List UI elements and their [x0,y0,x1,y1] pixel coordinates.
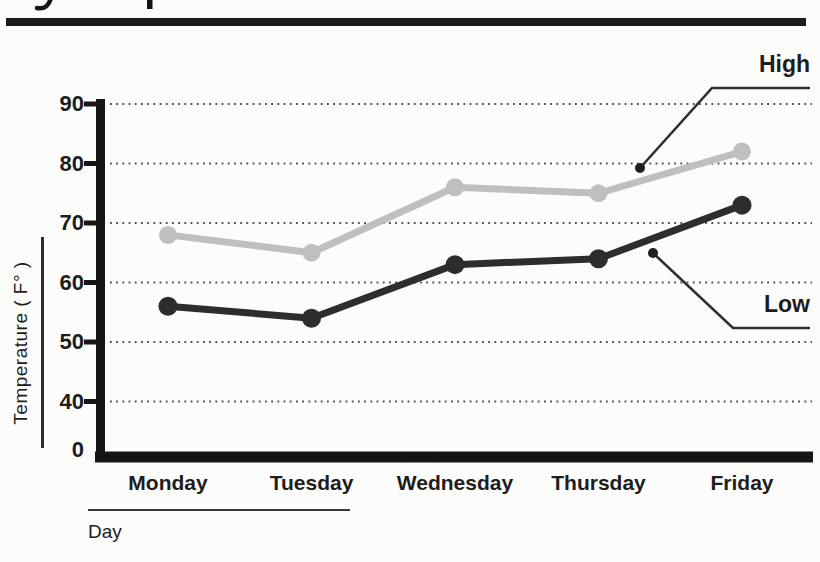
high-series-point-monday [159,226,177,244]
high-series-point-wednesday [446,178,464,196]
low-series-point-friday [733,196,752,215]
x-axis-title-underline [88,509,350,511]
y-tick-label-90: 90 [46,92,84,116]
y-tick-label-60: 60 [46,271,84,295]
low-series-point-monday [159,297,178,316]
y-axis-title: Temperature ( F° ) [10,233,32,453]
y-axis-title-underline [41,237,44,448]
y-tick-label-70: 70 [46,211,84,235]
low-series-point-tuesday [302,309,321,328]
low-series-point-wednesday [446,255,465,274]
y-tick-label-50: 50 [46,330,84,354]
x-axis-label-tuesday: Tuesday [246,471,378,495]
legend-low-label: Low [736,292,810,317]
figure-canvas: Temperature ( F° ) Day High Low 90807060… [0,0,820,562]
high-series-point-friday [733,143,751,161]
x-axis-title: Day [88,521,122,543]
high-series-point-tuesday [303,244,321,262]
cropped-title-descender-y [37,0,51,8]
low-callout-dot [648,248,658,258]
high-series-point-thursday [590,184,608,202]
x-axis-label-friday: Friday [676,471,808,495]
x-axis-label-monday: Monday [102,471,234,495]
x-axis-label-thursday: Thursday [533,471,665,495]
high-callout-dot [635,163,645,173]
y-tick-label-40: 40 [46,390,84,414]
legend-high-label: High [736,52,810,77]
y-origin-label: 0 [46,438,84,462]
y-tick-label-80: 80 [46,152,84,176]
low-series-point-thursday [589,249,608,268]
cropped-title-descender-p [147,0,153,9]
x-axis-label-wednesday: Wednesday [389,471,521,495]
